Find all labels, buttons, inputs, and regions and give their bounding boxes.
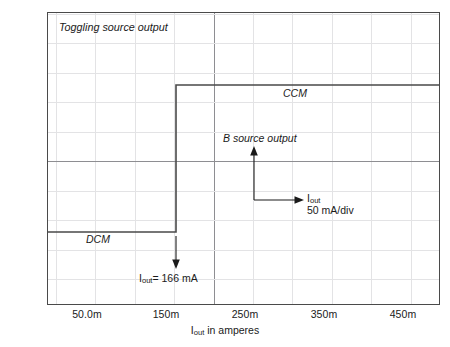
gridline-vertical [253, 13, 254, 304]
gridline-vertical [371, 13, 372, 304]
gridline-horizontal [48, 279, 439, 280]
x-axis-title-sub: out [194, 328, 205, 337]
x-tick-label: 450m [390, 308, 417, 320]
gridline-vertical [292, 13, 293, 304]
x-tick-label: 150m [153, 308, 180, 320]
gridline-horizontal [48, 250, 439, 251]
gridline-horizontal [48, 43, 439, 44]
gridline-vertical [332, 13, 333, 304]
iout-166-sub: out [142, 276, 153, 285]
gridline-vertical [411, 13, 412, 304]
plot-area: Toggling source output CCM DCM B source … [47, 12, 440, 305]
chart-figure: Toggling source output CCM DCM B source … [0, 0, 450, 347]
x-tick-label: 350m [311, 308, 338, 320]
gridline-vertical-major [214, 13, 215, 304]
gridline-vertical [56, 13, 57, 304]
x-axis-title-rest: in amperes [204, 324, 259, 336]
b-source-output-label: B source output [223, 132, 297, 144]
iout-166-rest: = 166 mA [152, 272, 197, 284]
gridline-horizontal-major [48, 161, 439, 162]
gridline-horizontal [48, 14, 439, 15]
iout-scale-label: 50 mA/div [307, 204, 354, 216]
gridline-horizontal [48, 73, 439, 74]
iout-166-label: Iout= 166 mA [139, 272, 198, 285]
x-tick-label: 50.0m [72, 308, 102, 320]
gridline-vertical [135, 13, 136, 304]
dcm-label: DCM [86, 233, 110, 245]
x-tick-label: 250m [232, 308, 259, 320]
ccm-label: CCM [283, 87, 307, 99]
gridline-vertical [174, 13, 175, 304]
gridline-horizontal [48, 220, 439, 221]
x-axis-title: Iout in amperes [0, 324, 450, 337]
gridline-horizontal [48, 102, 439, 103]
gridline-horizontal [48, 191, 439, 192]
gridline-vertical [95, 13, 96, 304]
plot-title-annotation: Toggling source output [59, 21, 168, 33]
